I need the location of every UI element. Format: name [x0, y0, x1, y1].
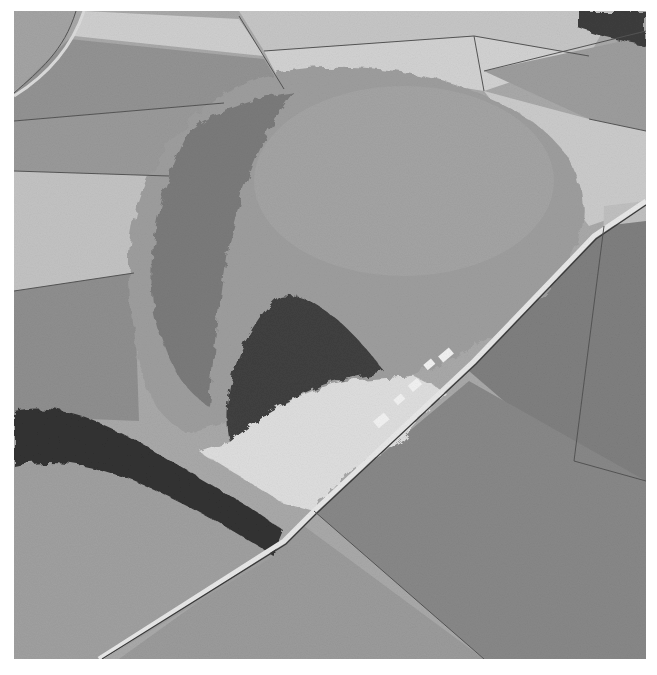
- aerial-photo-drawing: [14, 11, 646, 659]
- hill-summit: [254, 86, 554, 276]
- aerial-photo: [14, 11, 646, 659]
- field-left-lower: [14, 273, 139, 421]
